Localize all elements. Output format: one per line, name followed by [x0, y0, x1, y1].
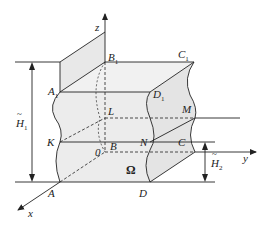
diagram-canvas: z B1 C1 A1 D1 L M K N C 0 B Ω y A D x H1… [0, 0, 270, 226]
point-a1-sub: 1 [55, 92, 59, 100]
point-a1-label: A1 [48, 86, 58, 100]
point-d1-letter: D [153, 88, 161, 100]
h2-letter: H [211, 158, 219, 169]
point-n-label: N [140, 137, 147, 148]
point-d1-label: D1 [153, 89, 164, 103]
point-d-label: D [139, 188, 147, 199]
h1-sub: 1 [24, 124, 28, 132]
point-a1-letter: A [48, 85, 55, 97]
y-axis-label: y [243, 153, 248, 164]
point-m-label: M [182, 104, 191, 115]
domain-fill [52, 92, 154, 182]
diagram-drawing [0, 0, 270, 226]
point-d1-sub: 1 [161, 95, 165, 103]
point-b1-letter: B [108, 51, 115, 63]
point-b1-sub: 1 [115, 58, 119, 66]
h1-letter: H [16, 118, 24, 129]
h2-dimension-label: H2 [211, 158, 222, 172]
point-b-label: B [110, 141, 117, 152]
origin-label: 0 [95, 147, 101, 158]
point-l-label: L [108, 106, 114, 117]
point-c1-sub: 1 [185, 55, 189, 63]
h1-dimension-label: H1 [16, 118, 27, 132]
point-c-label: C [178, 137, 185, 148]
point-k-label: K [47, 137, 54, 148]
x-axis-label: x [28, 208, 33, 219]
point-b1-label: B1 [108, 52, 118, 66]
point-a-label: A [48, 188, 55, 199]
region-omega-label: Ω [126, 164, 136, 176]
h2-sub: 2 [219, 164, 223, 172]
z-axis-label: z [95, 22, 99, 33]
point-c1-label: C1 [178, 49, 189, 63]
